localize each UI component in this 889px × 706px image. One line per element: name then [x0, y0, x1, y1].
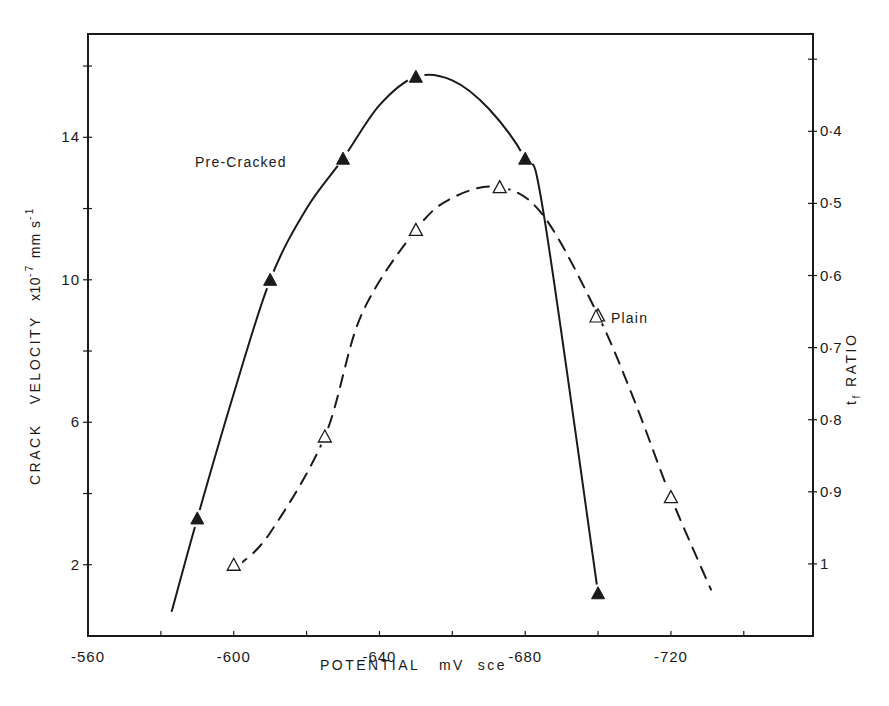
y-axis-unit-exp: -7: [24, 263, 35, 277]
x-axis-title: POTENTIAL mV sce: [320, 657, 507, 673]
y2-tick-label: 0·4: [820, 122, 842, 139]
y-axis-unit-prefix: x10: [27, 277, 43, 301]
plot-border: [88, 34, 813, 636]
annotation-plain: Plain: [611, 310, 648, 326]
y2-axis-title: tf RATIO: [843, 333, 862, 405]
y2-tick-label: 0·9: [820, 483, 842, 500]
y2-tick-label: 0·7: [820, 339, 842, 356]
y2-tick-label: 0·8: [820, 411, 842, 428]
y2-axis-title-rest: RATIO: [843, 333, 859, 394]
y-axis-title-main: CRACK VELOCITY: [27, 315, 43, 485]
annotation-pre-cracked: Pre-Cracked: [195, 154, 287, 170]
plot-frame: [88, 34, 813, 636]
y-tick-label: 6: [71, 413, 80, 430]
x-tick-label: -600: [217, 648, 251, 665]
crack-velocity-chart: -560-600-640-680-720 261014 0·40·50·60·7…: [0, 0, 889, 706]
y-tick-label: 14: [61, 128, 80, 145]
y-tick-label: 2: [71, 556, 80, 573]
x-tick-label: -680: [508, 648, 542, 665]
series-markers: [188, 68, 680, 603]
y-axis-title: CRACK VELOCITYx10-7 mm s-1: [24, 206, 43, 485]
y-tick-label: 10: [61, 271, 80, 288]
y2-tick-label: 1: [820, 555, 828, 572]
y-axis-unit-exp2: -1: [24, 206, 35, 220]
y2-tick-label: 0·6: [820, 267, 842, 284]
y2-tick-label: 0·5: [820, 194, 842, 211]
x-tick-label: -560: [71, 648, 105, 665]
y-axis-unit-mid: mm s: [27, 220, 43, 263]
series-line-plain: [237, 186, 711, 589]
x-tick-label: -720: [654, 648, 688, 665]
